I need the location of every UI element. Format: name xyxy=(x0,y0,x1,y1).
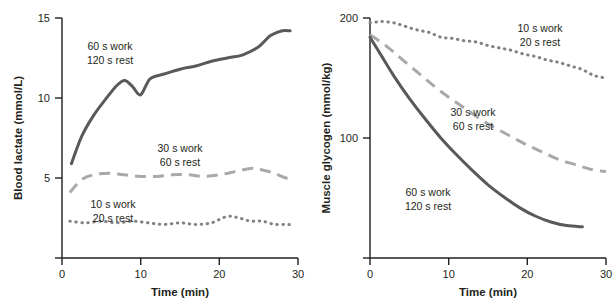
x-ticklabel-30: 30 xyxy=(600,268,612,280)
chart-panel-muscle-glycogen: 100 200 0 10 20 30 Muscle glycogen (mmol… xyxy=(308,0,616,302)
y-ticklabel-200: 200 xyxy=(340,12,358,24)
x-axis-title: Time (min) xyxy=(151,286,209,298)
annotation-10s-line1: 10 s work xyxy=(91,198,137,210)
annotation-60s-line1: 60 s work xyxy=(406,186,452,198)
series-line-60s-work-120s-rest xyxy=(370,37,582,227)
annotation-60s-line2: 120 s rest xyxy=(87,54,133,66)
annotation-30s-line2: 60 s rest xyxy=(453,120,493,132)
x-ticklabel-0: 0 xyxy=(59,268,65,280)
annotation-60s-line1: 60 s work xyxy=(88,40,134,52)
series-line-30s-work-60s-rest xyxy=(370,35,606,172)
annotation-30s-line2: 60 s rest xyxy=(160,156,200,168)
y-ticklabel-100: 100 xyxy=(340,132,358,144)
muscle-glycogen-svg: 100 200 0 10 20 30 Muscle glycogen (mmol… xyxy=(308,0,616,302)
x-axis-title: Time (min) xyxy=(459,286,517,298)
series-line-10s-work-20s-rest xyxy=(370,22,606,78)
series-line-30s-work-60s-rest xyxy=(70,168,294,192)
annotation-30s-line1: 30 s work xyxy=(158,142,204,154)
y-ticklabel-5: 5 xyxy=(44,172,50,184)
annotation-10s-line2: 20 s rest xyxy=(93,212,133,224)
x-ticklabel-10: 10 xyxy=(135,268,147,280)
annotation-10s-line1: 10 s work xyxy=(518,22,564,34)
x-ticklabel-0: 0 xyxy=(367,268,373,280)
x-ticklabel-30: 30 xyxy=(292,268,304,280)
y-axis-title: Muscle glycogen (mmol/kg) xyxy=(320,62,332,213)
x-ticklabel-20: 20 xyxy=(521,268,533,280)
blood-lactate-svg: 5 10 15 0 10 20 30 Blood lactate (mmol/L… xyxy=(0,0,308,302)
chart-panel-blood-lactate: 5 10 15 0 10 20 30 Blood lactate (mmol/L… xyxy=(0,0,308,302)
x-ticklabel-20: 20 xyxy=(213,268,225,280)
figure-container: 5 10 15 0 10 20 30 Blood lactate (mmol/L… xyxy=(0,0,616,302)
y-axis-title: Blood lactate (mmol/L) xyxy=(12,76,24,200)
annotation-10s-line2: 20 s rest xyxy=(520,36,560,48)
x-ticklabel-10: 10 xyxy=(443,268,455,280)
y-ticklabel-15: 15 xyxy=(38,12,50,24)
annotation-30s-line1: 30 s work xyxy=(451,106,497,118)
y-ticklabel-10: 10 xyxy=(38,92,50,104)
annotation-60s-line2: 120 s rest xyxy=(405,200,451,212)
